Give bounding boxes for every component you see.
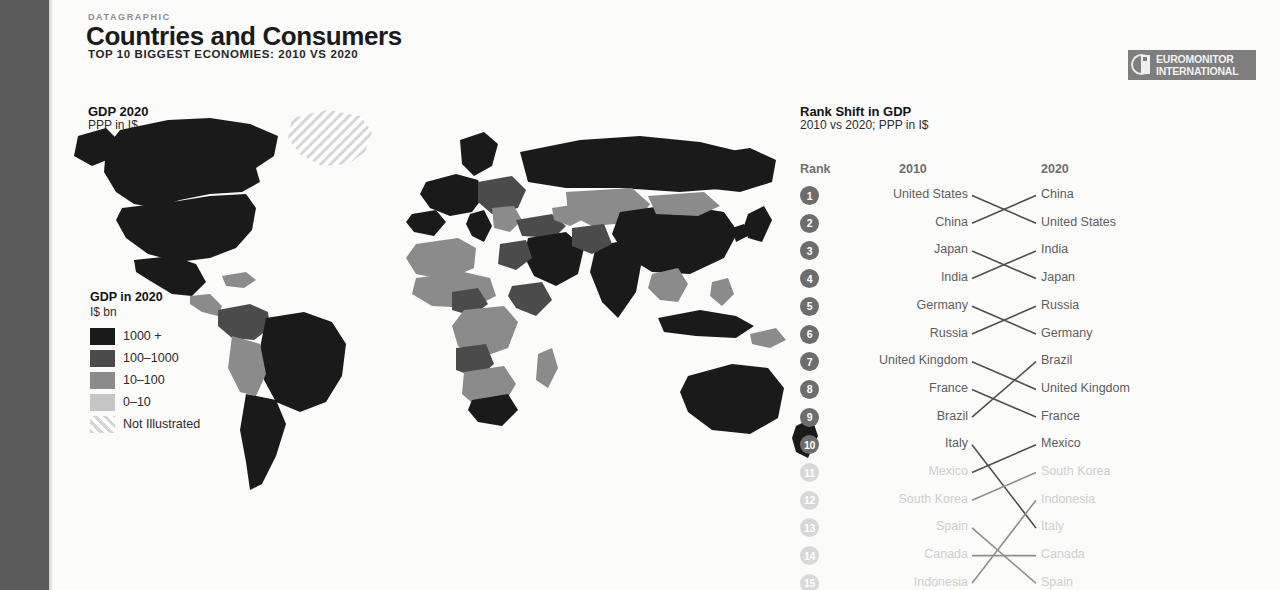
region-balkans <box>492 206 522 232</box>
legend-unit: I$ bn <box>90 305 265 320</box>
country-italy <box>466 210 492 242</box>
rank-row: 10ItalyMexico <box>800 435 1200 457</box>
rank-row: 9BrazilFrance <box>800 408 1200 430</box>
map-legend: GDP in 2020 I$ bn 1000 +100–100010–1000–… <box>90 290 265 435</box>
rank-badge: 3 <box>800 241 819 260</box>
rank-row: 5GermanyRussia <box>800 297 1200 319</box>
legend-swatch <box>90 416 115 433</box>
logo-line-1: EUROMONITOR <box>1156 53 1238 66</box>
country-label-2010: Indonesia <box>914 575 968 589</box>
rank-badge: 1 <box>800 186 819 205</box>
column-header-2010: 2010 <box>899 162 927 176</box>
country-madagascar <box>536 348 558 388</box>
country-label-2010: United Kingdom <box>879 353 968 367</box>
country-label-2020: United States <box>1041 215 1116 229</box>
region-caribbean <box>222 272 256 288</box>
country-label-2010: Brazil <box>937 409 968 423</box>
rank-badge: 15 <box>800 574 819 590</box>
region-horn-of-africa <box>508 282 552 316</box>
legend-label: 100–1000 <box>123 351 179 365</box>
country-label-2010: France <box>929 381 968 395</box>
country-label-2020: Brazil <box>1041 353 1072 367</box>
rank-badge: 6 <box>800 325 819 344</box>
country-label-2020: China <box>1041 187 1074 201</box>
country-label-2020: Canada <box>1041 547 1085 561</box>
rank-row: 13SpainItaly <box>800 518 1200 540</box>
country-label-2010: Spain <box>936 519 968 533</box>
infographic-page: DATAGRAPHIC Countries and Consumers TOP … <box>0 0 1280 590</box>
legend-title: GDP in 2020 <box>90 290 265 305</box>
rank-badge: 9 <box>800 408 819 427</box>
logo-line-2: INTERNATIONAL <box>1156 65 1238 78</box>
legend-swatch <box>90 350 115 367</box>
legend-item: 100–1000 <box>90 347 265 369</box>
legend-item: 10–100 <box>90 369 265 391</box>
country-japan <box>744 206 772 242</box>
rank-badge: 12 <box>800 491 819 510</box>
rank-row: 11MexicoSouth Korea <box>800 463 1200 485</box>
country-label-2010: Russia <box>930 326 968 340</box>
rank-panel-title: Rank Shift in GDP <box>800 104 911 119</box>
country-label-2010: United States <box>893 187 968 201</box>
rank-badge: 7 <box>800 352 819 371</box>
country-greenland <box>288 110 372 166</box>
country-label-2010: Italy <box>945 436 968 450</box>
country-label-2020: Japan <box>1041 270 1075 284</box>
country-canada <box>104 118 278 208</box>
country-russia-east <box>696 148 776 192</box>
country-brazil <box>260 312 346 412</box>
rank-row: 1United StatesChina <box>800 186 1200 208</box>
rank-badge: 5 <box>800 297 819 316</box>
country-label-2010: Canada <box>924 547 968 561</box>
legend-item: 1000 + <box>90 325 265 347</box>
rank-row: 4IndiaJapan <box>800 269 1200 291</box>
country-label-2020: Spain <box>1041 575 1073 589</box>
column-header-rank: Rank <box>800 162 831 176</box>
left-gutter-bar <box>0 0 49 590</box>
region-western-europe <box>420 174 484 216</box>
country-label-2020: United Kingdom <box>1041 381 1130 395</box>
legend-label: 1000 + <box>123 329 162 343</box>
column-header-2020: 2020 <box>1041 162 1069 176</box>
country-label-2020: Italy <box>1041 519 1064 533</box>
rank-badge: 8 <box>800 380 819 399</box>
legend-label: Not Illustrated <box>123 417 200 431</box>
country-label-2020: Indonesia <box>1041 492 1095 506</box>
country-label-2010: China <box>935 215 968 229</box>
euromonitor-logo-mark-icon <box>1130 52 1154 78</box>
country-label-2010: Germany <box>917 298 968 312</box>
rank-row: 14CanadaCanada <box>800 546 1200 568</box>
rank-badge: 2 <box>800 214 819 233</box>
rank-row: 6RussiaGermany <box>800 325 1200 347</box>
country-egypt <box>498 240 532 270</box>
rank-row: 2ChinaUnited States <box>800 214 1200 236</box>
region-scandinavia <box>460 132 498 176</box>
legend-swatch <box>90 328 115 345</box>
legend-rows: 1000 +100–100010–1000–10Not Illustrated <box>90 325 265 435</box>
country-label-2010: Mexico <box>928 464 968 478</box>
rank-panel-subtitle: 2010 vs 2020; PPP in I$ <box>800 118 929 132</box>
legend-label: 0–10 <box>123 395 151 409</box>
rank-row: 15IndonesiaSpain <box>800 574 1200 590</box>
country-india <box>590 240 642 318</box>
legend-swatch <box>90 394 115 411</box>
rank-row: 7United KingdomBrazil <box>800 352 1200 374</box>
rank-row: 12South KoreaIndonesia <box>800 491 1200 513</box>
country-label-2020: Mexico <box>1041 436 1081 450</box>
country-label-2010: Japan <box>934 242 968 256</box>
rank-badge: 10 <box>800 435 819 454</box>
country-label-2010: South Korea <box>899 492 969 506</box>
country-label-2020: South Korea <box>1041 464 1111 478</box>
rank-badge: 14 <box>800 546 819 565</box>
legend-label: 10–100 <box>123 373 165 387</box>
legend-item: 0–10 <box>90 391 265 413</box>
country-spain <box>406 210 446 236</box>
country-philippines <box>710 278 734 306</box>
country-indonesia <box>658 310 754 338</box>
euromonitor-logo: EUROMONITOR INTERNATIONAL <box>1128 50 1256 80</box>
country-label-2020: India <box>1041 242 1068 256</box>
rank-row: 3JapanIndia <box>800 241 1200 263</box>
rank-badge: 11 <box>800 463 819 482</box>
rank-row: 8FranceUnited Kingdom <box>800 380 1200 402</box>
country-papua-new-guinea <box>750 328 786 348</box>
